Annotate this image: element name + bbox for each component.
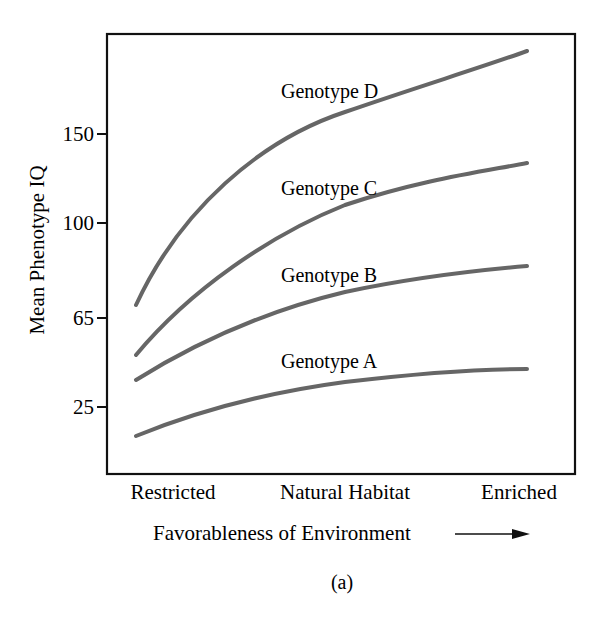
x-label-enriched: Enriched bbox=[481, 480, 557, 504]
label-genotype-d: Genotype D bbox=[281, 80, 378, 103]
y-tick-label-65: 65 bbox=[73, 306, 94, 330]
arrow-right-icon bbox=[455, 529, 530, 539]
x-axis-title: Favorableness of Environment bbox=[153, 521, 411, 545]
y-axis-title: Mean Phenotype IQ bbox=[25, 165, 49, 334]
chart: 150 100 65 25 Mean Phenotype IQ Genotype… bbox=[0, 0, 596, 617]
curve-genotype-a bbox=[136, 369, 527, 436]
curves bbox=[136, 51, 527, 436]
y-tick-label-25: 25 bbox=[73, 395, 94, 419]
label-genotype-c: Genotype C bbox=[281, 177, 377, 200]
y-axis-ticks bbox=[97, 134, 107, 407]
label-genotype-a: Genotype A bbox=[281, 350, 378, 373]
figure-caption: (a) bbox=[331, 571, 353, 594]
x-label-restricted: Restricted bbox=[130, 480, 216, 504]
y-tick-label-100: 100 bbox=[63, 211, 95, 235]
x-label-natural-habitat: Natural Habitat bbox=[280, 480, 410, 504]
y-tick-label-150: 150 bbox=[63, 122, 95, 146]
label-genotype-b: Genotype B bbox=[281, 264, 377, 287]
